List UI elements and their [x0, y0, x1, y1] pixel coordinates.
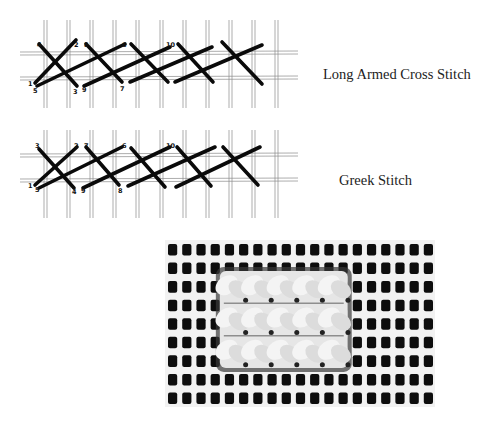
step-number: 6 [122, 41, 127, 49]
step-number: 4 [37, 41, 42, 49]
step-number: 8 [84, 41, 89, 49]
step-number: 2 [74, 41, 79, 49]
step-number: 3 [73, 88, 78, 96]
greek-stitch-caption: Greek Stitch [339, 172, 412, 189]
long-armed-cross-stitch-caption: Long Armed Cross Stitch [323, 66, 471, 83]
step-number: 4 [72, 188, 77, 196]
step-number: 2 [74, 142, 79, 150]
step-number: 9 [82, 86, 87, 94]
canvas-grid [20, 20, 298, 108]
step-number: 7 [120, 85, 125, 93]
step-number: 9 [81, 187, 86, 195]
greek-stitch-photo [165, 240, 435, 407]
step-number: 5 [33, 87, 38, 95]
long-armed-cross-stitch-diagram: 42861015397 [0, 20, 300, 110]
step-number: 10 [166, 41, 176, 49]
step-number: 7 [84, 142, 89, 150]
step-number: 3 [35, 142, 40, 150]
step-number: 6 [122, 142, 127, 150]
wool-stitches [212, 267, 355, 372]
step-number: 5 [35, 186, 40, 194]
step-number: 10 [166, 142, 176, 150]
step-number: 1 [28, 182, 33, 190]
step-number: 8 [118, 187, 123, 195]
greek-stitch-diagram: 32761015498 [0, 130, 300, 220]
